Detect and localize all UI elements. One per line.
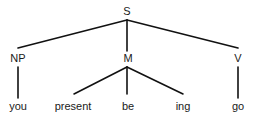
leaf-go: go	[232, 100, 244, 112]
edge-m-present	[74, 67, 127, 94]
leaf-you: you	[9, 100, 27, 112]
leaf-present: present	[55, 100, 92, 112]
node-m: M	[123, 52, 132, 64]
node-v: V	[234, 52, 242, 64]
node-np: NP	[10, 52, 25, 64]
edge-s-v	[127, 20, 238, 48]
edge-m-ing	[127, 67, 183, 94]
leaf-ing: ing	[176, 100, 191, 112]
node-s: S	[123, 5, 130, 17]
leaf-be: be	[122, 100, 134, 112]
syntax-tree: S NP M V you present be ing go	[0, 0, 257, 119]
edge-s-np	[18, 20, 127, 48]
